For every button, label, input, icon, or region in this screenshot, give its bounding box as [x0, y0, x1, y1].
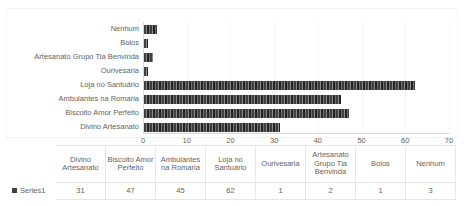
bar-row	[144, 78, 415, 92]
table-header-cell: Divino Artesanato	[56, 146, 106, 183]
legend-swatch-icon	[12, 188, 17, 193]
table-value-cell: 31	[56, 183, 106, 200]
bar-row	[144, 64, 148, 78]
bar	[144, 39, 148, 48]
legend-label: Series1	[20, 186, 45, 195]
table-header-cell: Loja no Santuário	[206, 146, 256, 183]
table-value-cell: 62	[206, 183, 256, 200]
bar-row	[144, 22, 157, 36]
bar	[144, 25, 157, 34]
table-value-cell: 2	[306, 183, 356, 200]
category-axis-labels: Nenhum Bolos Artesanato Grupo Tia Benvin…	[15, 22, 139, 134]
bar	[144, 109, 349, 118]
table-header-cell: Ourivesaria	[256, 146, 306, 183]
bar-row	[144, 92, 341, 106]
category-label-ourivesaria: Ourivesaria	[15, 64, 139, 78]
category-label-nenhum: Nenhum	[15, 22, 139, 36]
bar	[144, 53, 153, 62]
bar-series	[144, 22, 450, 134]
bar	[144, 67, 148, 76]
category-label-artesanato-grupo-tia-benvinda: Artesanato Grupo Tia Benvinda	[15, 50, 139, 64]
plot-area	[143, 22, 449, 134]
category-label-ambulantes-na-romaria: Ambulantes na Romaria	[15, 92, 139, 106]
table-value-cell: 3	[406, 183, 456, 200]
chart-screenshot: Nenhum Bolos Artesanato Grupo Tia Benvin…	[0, 0, 464, 206]
bar	[144, 81, 415, 90]
table-legend-header-cell	[6, 146, 56, 183]
legend-entry-series1: Series1	[6, 183, 56, 200]
table-value-cell: 1	[256, 183, 306, 200]
bar-row	[144, 120, 280, 134]
table-header-cell: Biscoito Amor Perfeito	[106, 146, 156, 183]
bar-row	[144, 106, 349, 120]
table-header-cell: Bolos	[356, 146, 406, 183]
bar	[144, 95, 341, 104]
data-table: Divino Artesanato Biscoito Amor Perfeito…	[5, 145, 456, 200]
table-row: Series1 31 47 45 62 1 2 1 3	[6, 183, 456, 200]
bar-row	[144, 50, 153, 64]
table-header-cell: Nenhum	[406, 146, 456, 183]
table-header-cell: Ambulantes na Romaria	[156, 146, 206, 183]
category-label-divino-artesanato: Divino Artesanato	[15, 120, 139, 134]
table-value-cell: 47	[106, 183, 156, 200]
table-header-row: Divino Artesanato Biscoito Amor Perfeito…	[6, 146, 456, 183]
table-header-cell: Artesanato Grupo Tia Benvinda	[306, 146, 356, 183]
bar	[144, 123, 280, 132]
category-label-biscoito-amor-perfeito: Biscoito Amor Perfeito	[15, 106, 139, 120]
table-value-cell: 45	[156, 183, 206, 200]
category-label-bolos: Bolos	[15, 36, 139, 50]
category-label-loja-no-santuario: Loja no Santuário	[15, 78, 139, 92]
table-value-cell: 1	[356, 183, 406, 200]
bar-row	[144, 36, 148, 50]
chart-frame: Nenhum Bolos Artesanato Grupo Tia Benvin…	[6, 8, 458, 138]
